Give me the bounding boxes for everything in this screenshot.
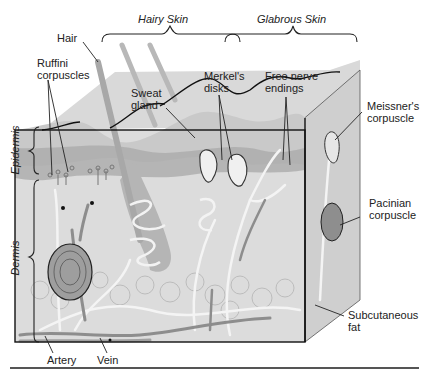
hair-label: Hair <box>57 32 77 44</box>
free-nerve-label-1: Free nerve <box>265 70 318 82</box>
ruffini-label-2: corpuscles <box>37 69 90 81</box>
vein-label: Vein <box>97 354 118 366</box>
meissner-label-1: Meissner's <box>367 100 419 112</box>
sweat-gland-label-2: gland <box>131 99 158 111</box>
subcutaneous-fat-label-1: Subcutaneous <box>348 309 418 321</box>
meissner-label-2: corpuscle <box>367 112 414 124</box>
subcutaneous-fat-label-2: fat <box>348 321 360 333</box>
pacinian-label-1: Pacinian <box>369 197 411 209</box>
dermis-label: Dermis <box>9 238 21 278</box>
free-nerve-label-2: endings <box>265 82 304 94</box>
glabrous-skin-brace <box>225 26 357 42</box>
glabrous-skin-heading: Glabrous Skin <box>257 13 326 25</box>
bottom-rule-divider <box>10 367 419 369</box>
merkel-label-2: disks <box>204 82 229 94</box>
artery-label: Artery <box>47 354 76 366</box>
epidermis-label: Epidermis <box>9 125 21 175</box>
pacinian-label-2: corpuscle <box>369 209 416 221</box>
merkel-label-1: Merkel's <box>204 70 245 82</box>
pacinian-corpuscle-large <box>48 244 92 300</box>
pacinian-corpuscle-side <box>321 203 343 241</box>
hairy-skin-brace <box>102 26 240 42</box>
ruffini-label-1: Ruffini <box>37 57 68 69</box>
hairy-skin-heading: Hairy Skin <box>138 13 188 25</box>
sweat-gland-label-1: Sweat <box>131 87 162 99</box>
